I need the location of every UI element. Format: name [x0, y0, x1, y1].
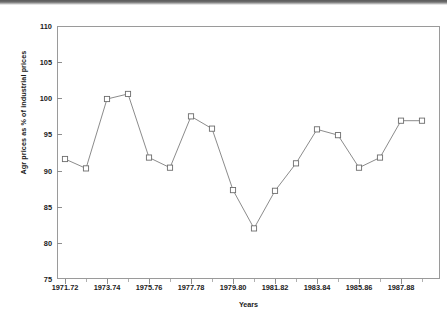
y-tick-label: 110 [26, 22, 52, 31]
series-polyline [65, 94, 422, 228]
data-point-marker [377, 155, 382, 160]
y-tick-label: 85 [26, 202, 52, 211]
series-line-chart [57, 26, 440, 279]
y-tick-label: 90 [26, 166, 52, 175]
data-point-marker [125, 91, 130, 96]
data-point-marker [83, 166, 88, 171]
x-tick-label: 1987.88 [388, 283, 415, 292]
x-tick-label: 1983.84 [304, 283, 331, 292]
x-tick-label: 1975.76 [136, 283, 163, 292]
y-tick-label: 75 [26, 275, 52, 284]
data-point-marker [62, 156, 67, 161]
x-tick-label: 1977.78 [178, 283, 205, 292]
x-tick-label: 1981.82 [262, 283, 289, 292]
y-axis-title: Agr prices as % of industrial prices [19, 28, 28, 198]
x-tick-mark-minor [422, 279, 423, 282]
x-tick-label: 1973.74 [94, 283, 121, 292]
data-point-marker [146, 155, 151, 160]
x-tick-mark-minor [212, 279, 213, 282]
data-point-marker [251, 226, 256, 231]
y-tick-label: 100 [26, 94, 52, 103]
data-point-marker [293, 161, 298, 166]
data-point-marker [272, 188, 277, 193]
x-tick-mark-minor [254, 279, 255, 282]
y-tick-label: 105 [26, 58, 52, 67]
data-point-marker [188, 114, 193, 119]
data-point-marker [398, 118, 403, 123]
data-point-marker [314, 127, 319, 132]
y-tick-label: 95 [26, 130, 52, 139]
x-tick-mark-minor [170, 279, 171, 282]
data-point-marker [356, 165, 361, 170]
x-tick-mark-minor [338, 279, 339, 282]
data-point-marker [209, 126, 214, 131]
data-point-marker [335, 133, 340, 138]
data-point-marker [419, 118, 424, 123]
x-tick-mark-minor [86, 279, 87, 282]
data-point-marker [230, 187, 235, 192]
data-point-marker [167, 165, 172, 170]
x-tick-label: 1979.80 [220, 283, 247, 292]
x-tick-mark-minor [380, 279, 381, 282]
x-tick-mark-minor [296, 279, 297, 282]
x-axis-title: Years [57, 300, 440, 309]
x-tick-label: 1985.86 [346, 283, 373, 292]
data-point-marker [104, 96, 109, 101]
x-tick-mark-minor [128, 279, 129, 282]
x-tick-label: 1971.72 [52, 283, 79, 292]
y-tick-label: 80 [26, 238, 52, 247]
chart-figure: 7580859095100105110 1971.721973.741975.7… [0, 0, 447, 326]
